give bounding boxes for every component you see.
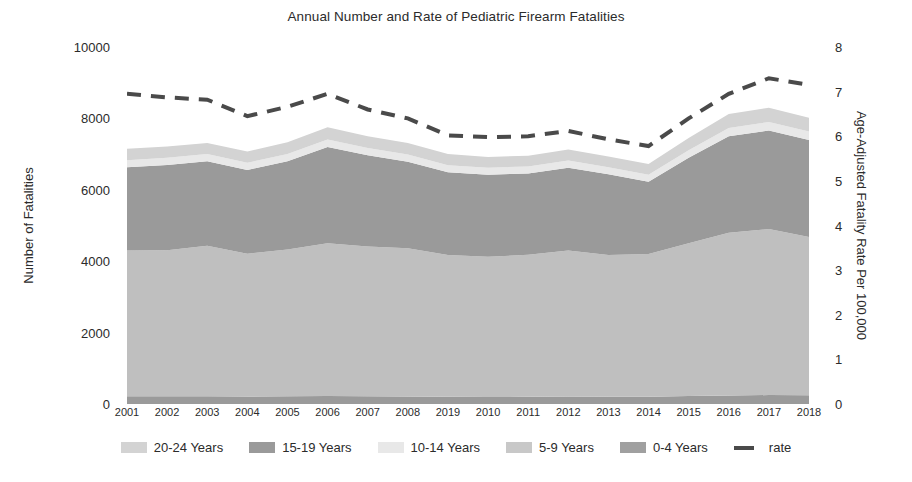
- y-axis-right-title: Age-Adjusted Fatality Rate Per 100,000: [852, 47, 872, 404]
- x-axis-tick: 2003: [195, 406, 219, 418]
- y-axis-right-tick: 8: [835, 40, 842, 55]
- x-axis-tick: 2011: [516, 406, 540, 418]
- x-axis-tick: 2006: [315, 406, 339, 418]
- chart-figure: Annual Number and Rate of Pediatric Fire…: [0, 0, 912, 482]
- x-axis: 2001200220032004200520062007200820192010…: [127, 406, 809, 426]
- x-axis-tick: 2005: [275, 406, 299, 418]
- x-axis-tick: 2012: [556, 406, 580, 418]
- y-axis-left-tick: 0: [103, 397, 110, 412]
- x-axis-tick: 2015: [676, 406, 700, 418]
- legend-item[interactable]: 10-14 Years: [378, 440, 480, 455]
- x-axis-tick: 2001: [115, 406, 139, 418]
- y-axis-left-tick: 6000: [81, 182, 110, 197]
- legend-label: 15-19 Years: [282, 440, 351, 455]
- legend-swatch: [506, 442, 532, 453]
- y-axis-left-tick: 10000: [74, 40, 110, 55]
- legend-item[interactable]: 5-9 Years: [506, 440, 594, 455]
- x-axis-tick: 2002: [155, 406, 179, 418]
- y-axis-right-tick: 3: [835, 263, 842, 278]
- chart-title: Annual Number and Rate of Pediatric Fire…: [0, 9, 912, 24]
- y-axis-left-tick: 8000: [81, 111, 110, 126]
- x-axis-tick: 2019: [436, 406, 460, 418]
- chart-legend: 20-24 Years15-19 Years10-14 Years5-9 Yea…: [0, 440, 912, 455]
- legend-item[interactable]: 0-4 Years: [620, 440, 708, 455]
- y-axis-right-tick: 7: [835, 84, 842, 99]
- legend-item[interactable]: 20-24 Years: [121, 440, 223, 455]
- x-axis-tick: 2013: [596, 406, 620, 418]
- x-axis-tick: 2014: [636, 406, 660, 418]
- legend-label: rate: [769, 440, 791, 455]
- x-axis-tick: 2016: [717, 406, 741, 418]
- legend-label: 10-14 Years: [411, 440, 480, 455]
- legend-swatch: [249, 442, 275, 453]
- plot-canvas: [127, 47, 809, 404]
- legend-label: 0-4 Years: [653, 440, 708, 455]
- legend-swatch: [378, 442, 404, 453]
- y-axis-right-tick: 1: [835, 352, 842, 367]
- y-axis-right-tick: 5: [835, 173, 842, 188]
- y-axis-right-tick: 6: [835, 129, 842, 144]
- x-axis-tick: 2018: [797, 406, 821, 418]
- legend-label: 20-24 Years: [154, 440, 223, 455]
- y-axis-left-tick: 2000: [81, 325, 110, 340]
- x-axis-tick: 2007: [355, 406, 379, 418]
- legend-item[interactable]: 15-19 Years: [249, 440, 351, 455]
- x-axis-tick: 2004: [235, 406, 259, 418]
- y-axis-right-tick: 4: [835, 218, 842, 233]
- y-axis-left-tick: 4000: [81, 254, 110, 269]
- y-axis-left: 0200040006000800010000: [0, 47, 120, 404]
- legend-label: 5-9 Years: [539, 440, 594, 455]
- y-axis-right-title-text: Age-Adjusted Fatality Rate Per 100,000: [855, 111, 870, 340]
- y-axis-right-tick: 2: [835, 307, 842, 322]
- x-axis-tick: 2008: [396, 406, 420, 418]
- x-axis-tick: 2017: [757, 406, 781, 418]
- legend-swatch: [121, 442, 147, 453]
- y-axis-right-tick: 0: [835, 397, 842, 412]
- legend-dash-marker: [734, 446, 754, 450]
- legend-item[interactable]: rate: [734, 440, 791, 455]
- plot-area: [127, 47, 809, 404]
- x-axis-tick: 2010: [476, 406, 500, 418]
- legend-swatch: [620, 442, 646, 453]
